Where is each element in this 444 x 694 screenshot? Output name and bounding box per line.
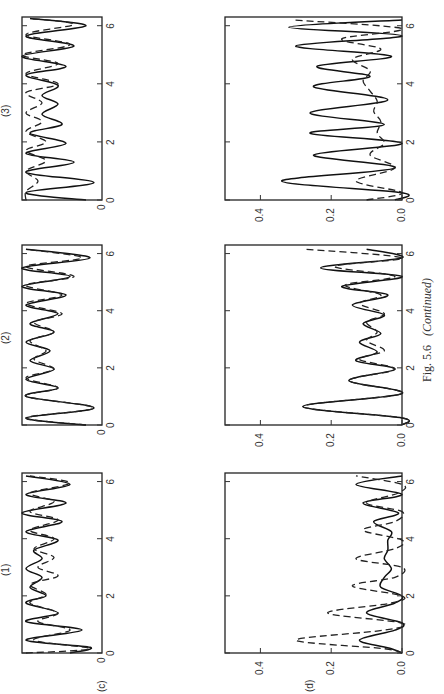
panel-c3-x-tick-label: 4 bbox=[105, 81, 116, 87]
panel-c1-x-tick-label: 4 bbox=[105, 536, 116, 542]
row-label-d: (d) bbox=[304, 680, 315, 692]
panel-c1-x-tick-label: 6 bbox=[105, 479, 116, 485]
panel-d1-y-tick-label: 0.4 bbox=[254, 661, 265, 675]
panel-d3-x-tick-label: 4 bbox=[405, 81, 416, 87]
panel-c1-x-tick-label: 0 bbox=[105, 650, 116, 656]
panel-d2-y-tick-label: 0.4 bbox=[254, 433, 265, 447]
row-label-c: (c) bbox=[96, 680, 107, 692]
panel-d1-solid-line bbox=[356, 476, 404, 653]
panel-c3-x-tick-label: 0 bbox=[105, 197, 116, 203]
caption-note: (Continued) bbox=[420, 278, 434, 336]
plots-canvas bbox=[0, 0, 444, 694]
panel-d3-y-tick-label: 0.4 bbox=[254, 208, 265, 222]
panel-d2-x-tick-label: 4 bbox=[405, 308, 416, 314]
panel-d2-x-tick-label: 6 bbox=[405, 251, 416, 257]
column-title-2: (2) bbox=[0, 332, 11, 344]
panel-d3-y-tick-label: 0.2 bbox=[325, 208, 336, 222]
panel-c3-x-tick-label: 2 bbox=[105, 139, 116, 145]
panel-d2-x-tick-label: 2 bbox=[405, 365, 416, 371]
figure-caption: Fig. 5.6 (Continued) bbox=[420, 278, 435, 382]
column-title-1: (1) bbox=[0, 564, 11, 576]
panel-d2-x-tick-label: 0 bbox=[405, 422, 416, 428]
panel-c2-x-tick-label: 2 bbox=[105, 365, 116, 371]
column-title-3: (3) bbox=[0, 105, 11, 117]
panel-c2-x-tick-label: 4 bbox=[105, 308, 116, 314]
panel-d1-x-tick-label: 2 bbox=[405, 593, 416, 599]
panel-c2-dashed-line bbox=[25, 249, 94, 425]
panel-d2-y-tick-label: 0.2 bbox=[325, 433, 336, 447]
panel-c1-y-tick-label: 0 bbox=[96, 657, 107, 663]
panel-c2-x-tick-label: 0 bbox=[105, 422, 116, 428]
panel-d3-frame bbox=[225, 17, 402, 200]
panel-d2-y-tick-label: 0.0 bbox=[396, 433, 407, 447]
panel-d1-x-tick-label: 6 bbox=[405, 479, 416, 485]
panel-d3-x-tick-label: 2 bbox=[405, 139, 416, 145]
panel-d3-solid-line bbox=[282, 20, 409, 200]
panel-d3-y-tick-label: 0.0 bbox=[396, 208, 407, 222]
panel-d3-x-tick-label: 6 bbox=[405, 23, 416, 29]
panel-d1-y-tick-label: 0.0 bbox=[396, 661, 407, 675]
panel-d1-dashed-line bbox=[296, 476, 406, 653]
panel-c1-x-tick-label: 2 bbox=[105, 593, 116, 599]
panel-c2-y-tick-label: 0 bbox=[96, 429, 107, 435]
panel-c3-y-tick-label: 0 bbox=[96, 204, 107, 210]
panel-d3-x-tick-label: 0 bbox=[405, 197, 416, 203]
panel-c2-x-tick-label: 6 bbox=[105, 251, 116, 257]
panel-d1-y-tick-label: 0.2 bbox=[325, 661, 336, 675]
caption-number: Fig. 5.6 bbox=[420, 345, 434, 382]
figure-page: (1) (2) (3) (c) (d) Fig. 5.6 (Continued)… bbox=[0, 0, 444, 694]
panel-c1-solid-line bbox=[22, 476, 91, 653]
panel-d1-x-tick-label: 4 bbox=[405, 536, 416, 542]
panel-c3-x-tick-label: 6 bbox=[105, 23, 116, 29]
panel-d2-dashed-line bbox=[303, 249, 409, 425]
panel-c3-solid-line bbox=[22, 19, 94, 201]
panel-d1-x-tick-label: 0 bbox=[405, 650, 416, 656]
